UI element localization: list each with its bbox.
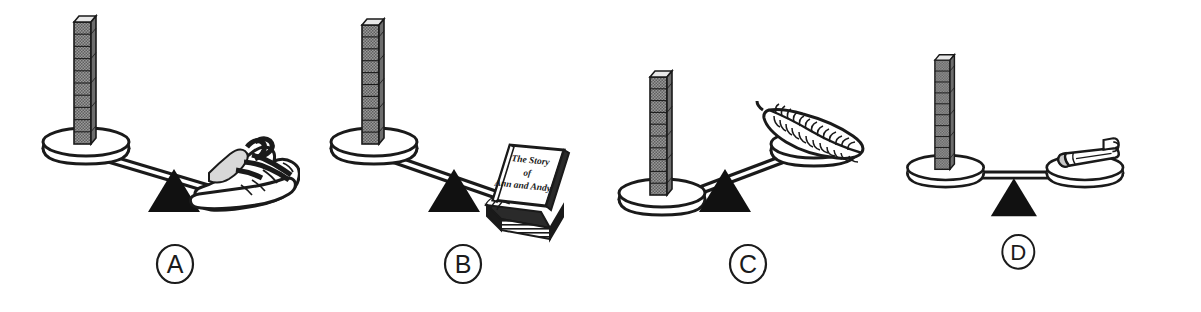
figure-canvas: A bbox=[0, 0, 1201, 312]
balance-panel-b[interactable]: The Story of Ann and Andy B bbox=[288, 0, 588, 312]
panel-label-a-text: A bbox=[167, 250, 184, 278]
panel-label-b: B bbox=[445, 245, 481, 283]
cube-stack-a bbox=[74, 16, 96, 144]
panel-label-a: A bbox=[157, 245, 193, 283]
cube-stack-b bbox=[362, 19, 384, 144]
book-b: The Story of Ann and Andy bbox=[485, 145, 569, 239]
panel-label-c-text: C bbox=[739, 250, 757, 278]
balance-panel-a[interactable]: A bbox=[0, 0, 300, 312]
panel-label-b-text: B bbox=[455, 250, 472, 278]
balance-panel-c[interactable]: C bbox=[573, 0, 873, 312]
shoe-a bbox=[190, 139, 299, 210]
cube-stack-d bbox=[935, 55, 955, 169]
balance-panel-d[interactable]: D bbox=[863, 0, 1163, 312]
panel-label-c: C bbox=[730, 245, 766, 283]
fulcrum-d bbox=[991, 178, 1037, 216]
panel-label-d: D bbox=[1002, 235, 1034, 269]
panel-label-d-text: D bbox=[1010, 240, 1026, 265]
cube-stack-c bbox=[650, 71, 672, 195]
